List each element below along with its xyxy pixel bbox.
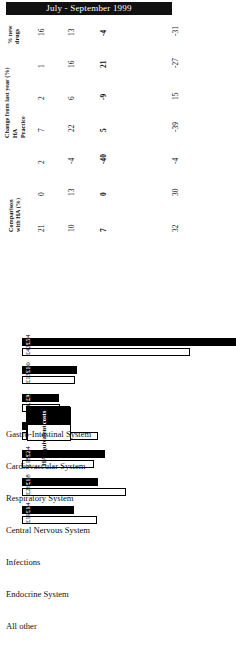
category-label: Endocrine System xyxy=(6,589,69,599)
cell-change-ha-row5: 13 xyxy=(68,189,76,196)
cell-change-ha-row3: 22 xyxy=(68,125,76,132)
legend-swatch-practice xyxy=(27,407,71,424)
cell-change-ha-row2: 6 xyxy=(68,96,76,100)
cell-comparison-row1: -27 xyxy=(172,58,180,68)
cell-comparison-row4: -4 xyxy=(172,158,180,164)
cell-change-ha-row4: -4 xyxy=(68,158,76,164)
period-title-bar: July - September 1999 xyxy=(6,2,172,15)
category-label: Cardiovascular System xyxy=(6,461,85,471)
cell-new-drugs-row0: 16 xyxy=(38,29,46,36)
bar-value-label: £13,500 xyxy=(24,362,31,383)
bar-value-label: £19,054 xyxy=(24,502,31,523)
page-title: July - September 1999 xyxy=(6,2,172,15)
column-header-comparison-line1: Comparison xyxy=(7,199,14,232)
bar-value-label: £42,794 xyxy=(24,334,31,355)
category-label: Gastro-Intestinal System xyxy=(6,429,91,439)
column-header-change-ha: HA xyxy=(11,129,18,138)
bar-practice-costs xyxy=(22,450,105,458)
cell-change-practice-row3: 5 xyxy=(100,128,108,132)
cell-change-ha-row6: 10 xyxy=(68,225,76,232)
column-header-change-practice: Practice xyxy=(19,116,26,138)
cell-change-practice-row2: -9 xyxy=(100,94,108,100)
cell-comparison-row6: 32 xyxy=(172,225,180,232)
bar-value-label: £26,488 xyxy=(24,474,31,495)
bar-ha-equivalent xyxy=(22,348,190,356)
cell-change-practice-row6: 7 xyxy=(100,228,108,232)
category-label: Respiratory System xyxy=(6,493,74,503)
cell-change-practice-row0: -4 xyxy=(100,30,108,36)
cell-new-drugs-row6: 21 xyxy=(38,225,46,232)
bar-practice-costs xyxy=(22,478,98,486)
category-label: All other xyxy=(6,621,37,631)
cell-comparison-row5: 30 xyxy=(172,189,180,196)
category-label: Infections xyxy=(6,557,40,567)
cell-change-ha-row0: 13 xyxy=(68,29,76,36)
cell-comparison-row0: -31 xyxy=(172,26,180,36)
cell-comparison-row2: 15 xyxy=(172,93,180,100)
bar-practice-costs xyxy=(22,338,236,346)
cell-change-practice-row1: 21 xyxy=(100,61,108,68)
cell-comparison-row3: -39 xyxy=(172,122,180,132)
column-header-comparison-line2: with HA (%) xyxy=(14,198,21,232)
legend-item-practice-costs: Practice costs xyxy=(27,407,71,424)
cell-new-drugs-row1: 1 xyxy=(38,64,46,68)
cell-change-practice-row4: -40 xyxy=(100,154,108,164)
column-header-new-drugs-line2: drugs xyxy=(13,29,20,44)
column-header-change-group: Change from last year (%) xyxy=(3,67,10,138)
cell-new-drugs-row3: 7 xyxy=(38,128,46,132)
category-label: Central Nervous System xyxy=(6,525,90,535)
cell-change-practice-row5: 0 xyxy=(100,192,108,196)
cell-new-drugs-row4: 2 xyxy=(38,160,46,164)
column-header-new-drugs-line1: % new xyxy=(6,26,13,44)
cell-new-drugs-row2: 2 xyxy=(38,96,46,100)
cell-change-ha-row1: 16 xyxy=(68,61,76,68)
bar-ha-equivalent xyxy=(22,516,97,524)
cell-new-drugs-row5: 0 xyxy=(38,192,46,196)
